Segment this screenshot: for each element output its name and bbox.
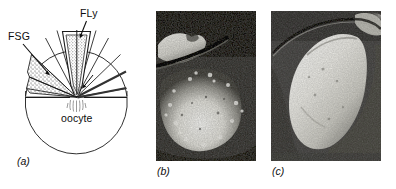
panel-c-image — [271, 11, 381, 161]
label-oocyte: oocyte — [61, 113, 93, 124]
label-fsg: FSG — [8, 31, 30, 42]
panel-b-photomicrograph — [156, 11, 256, 161]
panel-c-photomicrograph — [271, 11, 381, 161]
figure-panel-group: FSG FLy oocyte (a) — [0, 0, 396, 189]
panel-a-diagram: FSG FLy oocyte (a) — [0, 0, 152, 189]
panel-c-caption: (c) — [272, 166, 284, 177]
label-fly: FLy — [80, 8, 98, 19]
panel-b-image — [156, 11, 256, 161]
panel-a-caption: (a) — [17, 156, 30, 167]
panel-b-caption: (b) — [157, 166, 170, 177]
